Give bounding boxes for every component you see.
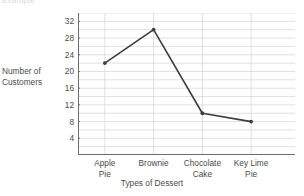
line-chart: Example Number of Customers 322824201612… <box>0 0 304 196</box>
axis-lines <box>78 13 295 155</box>
y-axis-tick-label: 32 <box>52 16 74 26</box>
horizontal-gridlines <box>78 13 295 147</box>
y-axis-tick-label: 16 <box>52 83 74 93</box>
y-axis-tick-label: 28 <box>52 33 74 43</box>
data-series-line <box>105 30 251 122</box>
y-axis-tick-label: 24 <box>52 50 74 60</box>
y-axis-tick-label: 12 <box>52 100 74 110</box>
x-axis-tick-label-line: Key Lime <box>214 158 288 169</box>
vertical-gridlines <box>105 13 251 155</box>
y-axis-tick-label: 20 <box>52 66 74 76</box>
x-axis-tick-label: Key LimePie <box>214 158 288 179</box>
y-axis-tick-label: 8 <box>52 117 74 127</box>
y-axis-tick-label: 4 <box>52 133 74 143</box>
clipped-header-text: Example <box>2 0 35 5</box>
plot-area <box>78 13 295 155</box>
data-point-markers <box>103 28 253 124</box>
x-axis-title: Types of Dessert <box>0 178 304 188</box>
plot-svg <box>78 13 295 155</box>
